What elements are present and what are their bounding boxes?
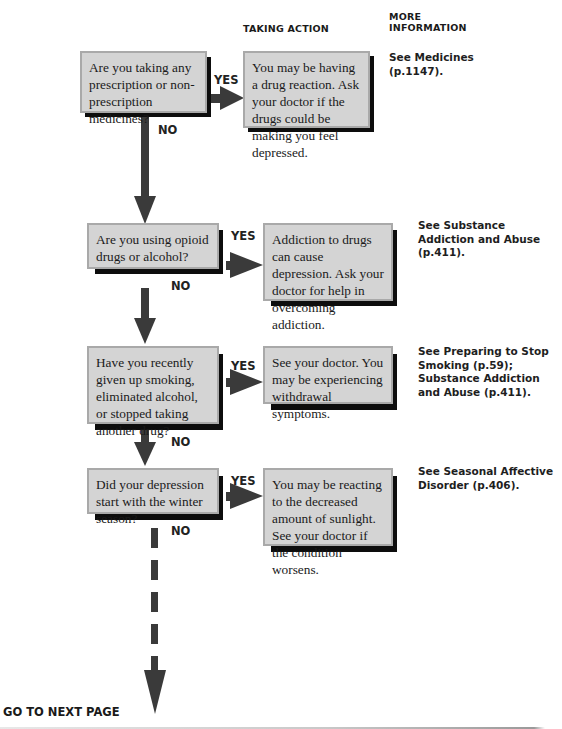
action-box-4: You may be reacting to the decreased amo… xyxy=(263,468,393,546)
no-label-1: NO xyxy=(158,123,177,137)
yes-arrow-1-head xyxy=(220,86,244,110)
question-box-4: Did your depression start with the winte… xyxy=(87,468,219,514)
question-box-1: Are you taking any prescription or non-p… xyxy=(80,51,207,113)
action-box-2: Addiction to drugs can cause depression.… xyxy=(263,223,393,301)
more-info-3: See Preparing to Stop Smoking (p.59); Su… xyxy=(418,345,558,399)
more-info-4: See Seasonal Affective Disorder (p.406). xyxy=(418,465,558,492)
action-box-1: You may be having a drug reaction. Ask y… xyxy=(243,51,370,128)
no-label-3: NO xyxy=(171,435,190,449)
no-arrow-2-head xyxy=(134,318,156,344)
no-arrow-3-head xyxy=(134,442,156,466)
action-box-3: See your doctor. You may be experiencing… xyxy=(263,346,393,404)
no-label-4: NO xyxy=(171,524,190,538)
no-label-2: NO xyxy=(171,279,190,293)
yes-label-3: YES xyxy=(231,359,255,373)
yes-arrow-2-head xyxy=(230,252,263,278)
more-info-1: See Medicines (p.1147). xyxy=(389,51,489,78)
yes-label-4: YES xyxy=(231,474,255,488)
yes-label-1: YES xyxy=(214,73,238,87)
more-info-2: See Substance Addiction and Abuse (p.411… xyxy=(418,219,548,260)
no-arrow-4-head xyxy=(144,670,166,714)
yes-label-2: YES xyxy=(231,229,255,243)
question-box-2: Are you using opioid drugs or alcohol? xyxy=(87,223,219,269)
go-to-next-page-link[interactable]: GO TO NEXT PAGE xyxy=(3,705,120,719)
no-arrow-4-dash-1 xyxy=(151,528,158,548)
question-box-3: Have you recently given up smoking, elim… xyxy=(87,346,219,424)
no-arrow-1-head xyxy=(134,196,156,224)
